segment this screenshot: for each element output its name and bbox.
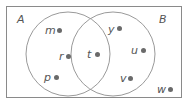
element-w-dot bbox=[168, 87, 173, 92]
element-r-dot bbox=[66, 54, 71, 59]
set-b-label: B bbox=[159, 14, 167, 25]
element-y-label: y bbox=[108, 24, 115, 35]
element-m-dot bbox=[57, 28, 62, 33]
element-u-label: u bbox=[131, 45, 138, 56]
element-r-label: r bbox=[59, 51, 64, 62]
element-m-label: m bbox=[45, 25, 56, 36]
element-p-dot bbox=[54, 75, 59, 80]
element-t-label: t bbox=[87, 49, 91, 60]
element-y-dot bbox=[117, 26, 122, 31]
element-u-dot bbox=[141, 48, 146, 53]
element-t-dot bbox=[95, 52, 100, 57]
element-v-label: v bbox=[120, 73, 127, 84]
set-a-label: A bbox=[17, 14, 25, 25]
element-p-label: p bbox=[44, 72, 51, 83]
element-w-label: w bbox=[157, 84, 166, 95]
element-v-dot bbox=[128, 76, 133, 81]
